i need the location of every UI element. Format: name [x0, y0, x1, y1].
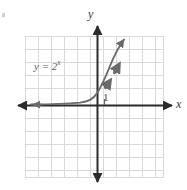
equation-exponent: x — [57, 58, 60, 67]
exponential-function-graph-figure: y x 1 y = 2x — [0, 0, 187, 190]
curve-marker-lower — [106, 82, 110, 88]
y-axis-label: y — [88, 8, 93, 20]
grid-horizontal-lines — [25, 37, 164, 178]
graph-canvas — [0, 0, 187, 190]
x-tick-label-one: 1 — [103, 92, 109, 103]
x-axis-label: x — [176, 98, 181, 110]
equation-base: y = 2 — [34, 60, 57, 72]
grid-vertical-lines — [26, 36, 164, 178]
curve-equation-label: y = 2x — [34, 59, 61, 72]
curve-marker-upper — [115, 66, 119, 73]
